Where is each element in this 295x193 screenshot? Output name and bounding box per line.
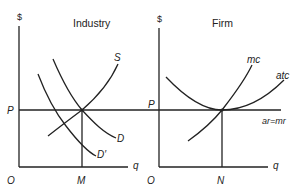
firm-x-axis-label: q: [273, 160, 279, 171]
industry-price-label: P: [7, 105, 14, 116]
industry-x-axis-label: q: [133, 160, 139, 171]
average-total-cost-label: atc: [276, 70, 289, 81]
industry-title: Industry: [73, 17, 111, 29]
industry-panel: $ Industry q O P M S D D′: [7, 12, 139, 186]
firm-y-axis-label: $: [157, 14, 162, 24]
industry-y-axis-label: $: [17, 12, 22, 22]
firm-origin-label: O: [147, 175, 155, 186]
marginal-cost-label: mc: [247, 54, 260, 65]
demand-curve: [53, 59, 116, 138]
revenue-line-label: ar=mr: [262, 116, 287, 126]
supply-curve-label: S: [114, 52, 121, 63]
demand-curve-label: D: [117, 133, 124, 144]
firm-equilibrium-point: [220, 108, 223, 111]
firm-title: Firm: [212, 17, 233, 29]
firm-price-label: P: [148, 99, 155, 110]
supply-curve: [48, 64, 118, 136]
demand-shifted-curve-label: D′: [97, 149, 107, 160]
firm-panel: $ Firm q O P N mc atc ar=mr: [147, 14, 289, 186]
industry-firm-diagram: $ Industry q O P M S D D′ $ Firm q O P N: [0, 0, 295, 193]
industry-origin-label: O: [7, 175, 15, 186]
firm-quantity-label: N: [217, 175, 225, 186]
industry-quantity-label: M: [77, 175, 86, 186]
